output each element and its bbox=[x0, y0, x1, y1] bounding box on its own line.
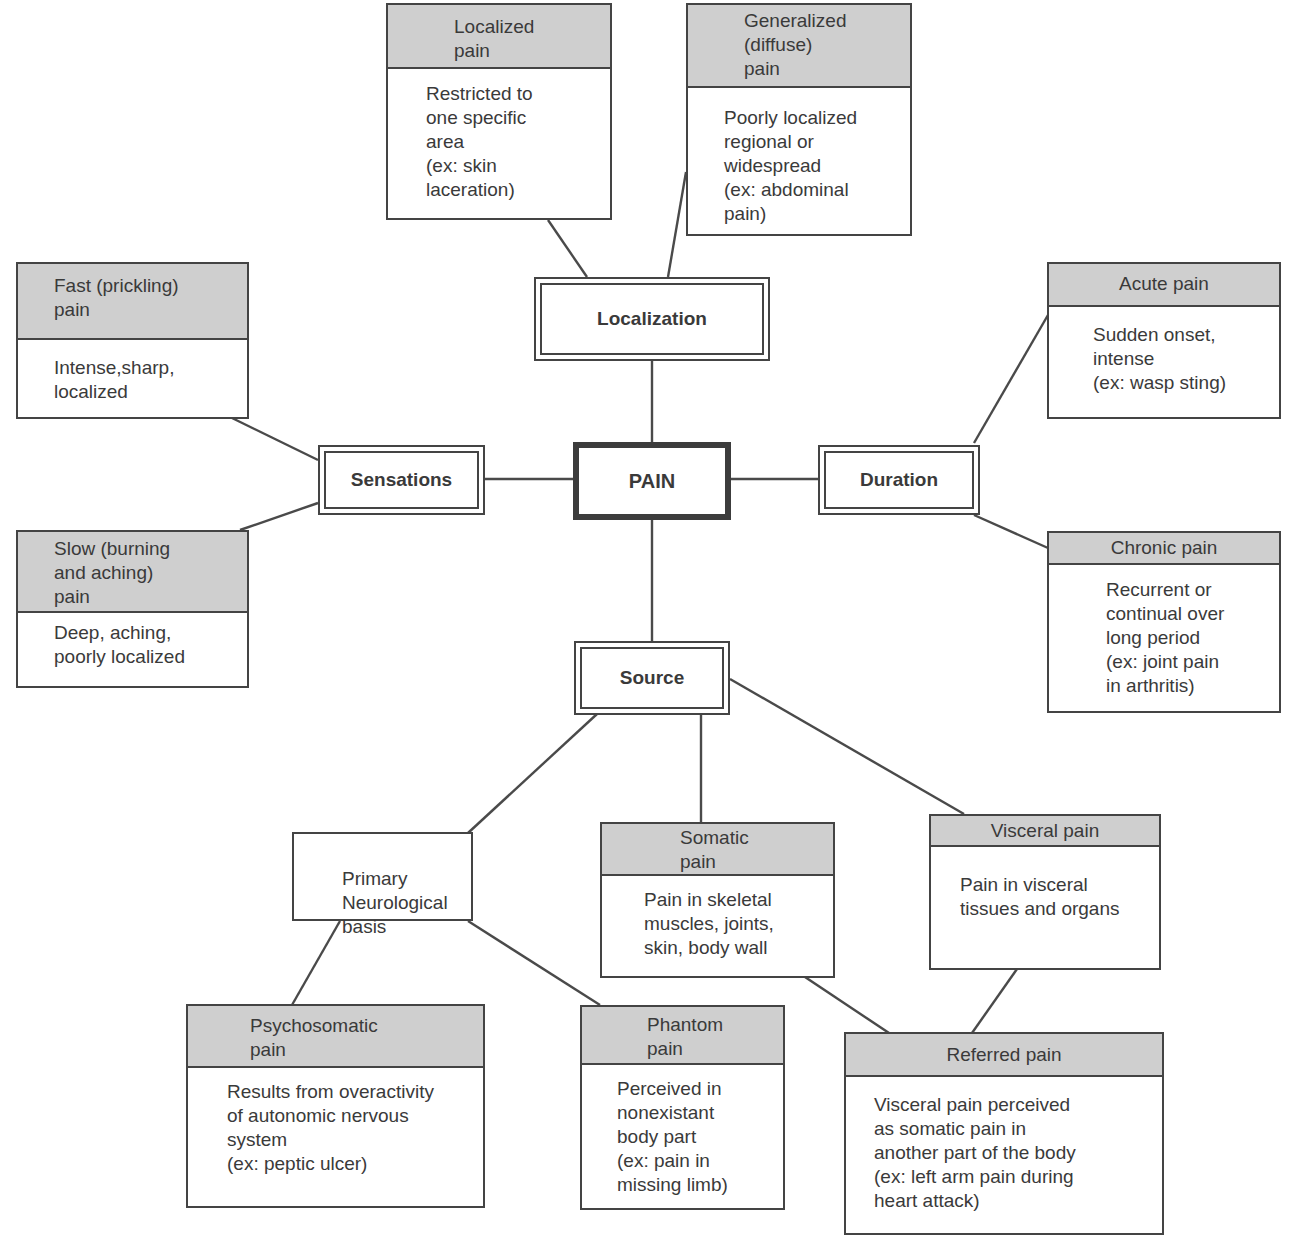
node-phantom-pain: Phantom pain Perceived in nonexistant bo… bbox=[580, 1005, 785, 1210]
node-referred-pain: Referred pain Visceral pain perceived as… bbox=[844, 1032, 1164, 1235]
node-referred-body: Visceral pain perceived as somatic pain … bbox=[846, 1077, 1162, 1213]
node-slow-pain: Slow (burning and aching) pain Deep, ach… bbox=[16, 530, 249, 688]
node-acute-pain: Acute pain Sudden onset, intense (ex: wa… bbox=[1047, 262, 1281, 419]
node-localized-pain: Localized pain Restricted to one specifi… bbox=[386, 3, 612, 220]
node-generalized-pain: Generalized (diffuse) pain Poorly locali… bbox=[686, 3, 912, 236]
node-visceral-pain: Visceral pain Pain in visceral tissues a… bbox=[929, 814, 1161, 970]
node-visceral-body: Pain in visceral tissues and organs bbox=[931, 847, 1159, 921]
category-sensations-label: Sensations bbox=[324, 451, 479, 509]
node-fast-pain: Fast (prickling) pain Intense,sharp, loc… bbox=[16, 262, 249, 419]
category-localization-label: Localization bbox=[540, 283, 764, 355]
node-slow-title: Slow (burning and aching) pain bbox=[18, 532, 247, 613]
node-referred-title: Referred pain bbox=[846, 1034, 1162, 1077]
category-duration-label: Duration bbox=[824, 451, 974, 509]
node-psychosomatic-body: Results from overactivity of autonomic n… bbox=[188, 1068, 483, 1176]
node-psychosomatic-pain: Psychosomatic pain Results from overacti… bbox=[186, 1004, 485, 1208]
node-acute-title: Acute pain bbox=[1049, 264, 1279, 307]
category-localization: Localization bbox=[534, 277, 770, 361]
node-somatic-title: Somatic pain bbox=[602, 824, 833, 876]
node-psychosomatic-title: Psychosomatic pain bbox=[188, 1006, 483, 1068]
root-label: PAIN bbox=[629, 470, 675, 493]
node-chronic-title: Chronic pain bbox=[1049, 533, 1279, 565]
node-somatic-body: Pain in skeletal muscles, joints, skin, … bbox=[602, 876, 833, 960]
node-somatic-pain: Somatic pain Pain in skeletal muscles, j… bbox=[600, 822, 835, 978]
category-source: Source bbox=[574, 641, 730, 715]
node-chronic-body: Recurrent or continual over long period … bbox=[1049, 565, 1279, 698]
node-acute-body: Sudden onset, intense (ex: wasp sting) bbox=[1049, 307, 1279, 395]
node-phantom-body: Perceived in nonexistant body part (ex: … bbox=[582, 1065, 783, 1197]
category-duration: Duration bbox=[818, 445, 980, 515]
node-generalized-body: Poorly localized regional or widespread … bbox=[688, 88, 910, 226]
node-visceral-title: Visceral pain bbox=[931, 816, 1159, 847]
node-generalized-title: Generalized (diffuse) pain bbox=[688, 5, 910, 88]
node-phantom-title: Phantom pain bbox=[582, 1007, 783, 1065]
node-localized-body: Restricted to one specific area (ex: ski… bbox=[388, 69, 610, 202]
root-pain: PAIN bbox=[573, 442, 731, 520]
node-fast-title: Fast (prickling) pain bbox=[18, 264, 247, 340]
node-primary-neurological: Primary Neurological basis bbox=[292, 832, 473, 921]
category-source-label: Source bbox=[580, 647, 724, 709]
node-slow-body: Deep, aching, poorly localized bbox=[18, 613, 247, 669]
category-sensations: Sensations bbox=[318, 445, 485, 515]
node-localized-title: Localized pain bbox=[388, 5, 610, 69]
node-chronic-pain: Chronic pain Recurrent or continual over… bbox=[1047, 531, 1281, 713]
node-fast-body: Intense,sharp, localized bbox=[18, 340, 247, 404]
